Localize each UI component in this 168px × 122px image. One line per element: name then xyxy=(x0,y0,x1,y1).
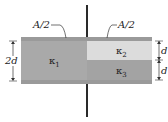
area-right-label: A/2 xyxy=(118,20,135,30)
kappa1-label: κ1 xyxy=(49,56,60,70)
kappa2-label: κ2 xyxy=(116,46,127,60)
annotation-lines xyxy=(0,0,168,122)
kappa3-label: κ3 xyxy=(116,66,127,80)
gap-upper-label: d xyxy=(161,46,167,56)
area-left-label: A/2 xyxy=(33,20,50,30)
gap-lower-label: d xyxy=(161,66,167,76)
gap-total-label: 2d xyxy=(5,56,18,66)
